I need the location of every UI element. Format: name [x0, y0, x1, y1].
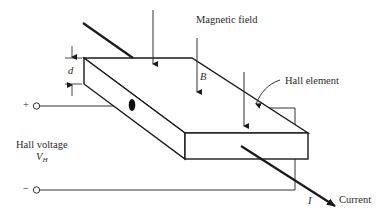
minus-sign-label: −	[23, 184, 29, 195]
current-input-line	[83, 23, 133, 58]
d-symbol-label: d	[68, 66, 73, 77]
b-symbol-label: B	[200, 72, 206, 83]
hall-element-pointer	[256, 80, 280, 104]
plus-sign-label: +	[23, 100, 29, 111]
hall-element-label: Hall element	[285, 76, 339, 87]
magnetic-field-label: Magnetic field	[196, 15, 258, 26]
hall-voltage-label: Hall voltage	[16, 140, 68, 151]
vh-symbol-label: VH	[36, 152, 47, 163]
minus-terminal	[33, 187, 39, 193]
i-symbol-label: I	[308, 196, 312, 207]
lower-wire	[40, 159, 295, 190]
contact-electrode	[129, 99, 136, 111]
current-label: Current	[339, 195, 371, 206]
hall-effect-diagram	[0, 0, 389, 215]
slab-front-face	[185, 133, 308, 159]
plus-terminal	[33, 103, 39, 109]
